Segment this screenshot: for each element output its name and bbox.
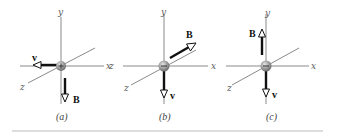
velocity-label: v: [32, 52, 37, 63]
y-axis-label: y: [160, 7, 167, 17]
z-axis-label: z: [123, 83, 129, 93]
panel-c: y x z B v (c): [226, 8, 316, 123]
magnetic-field-arrow: [259, 29, 266, 55]
caption-b: (b): [159, 111, 171, 123]
magnetic-field-arrow: [62, 78, 69, 102]
magnetic-field-label: B: [186, 29, 193, 40]
y-axis-label: y: [264, 8, 271, 18]
z-axis-label: z: [226, 83, 232, 93]
magnetic-field-arrow: [170, 43, 196, 58]
z-axis-label: z: [19, 82, 25, 92]
magnetic-field-label: B: [249, 28, 256, 39]
x-axis-label: x: [311, 61, 316, 71]
velocity-arrow: [263, 71, 270, 97]
velocity-label: v: [272, 89, 277, 100]
z-axis-label-edge: z: [108, 61, 114, 71]
velocity-label: v: [170, 90, 175, 101]
velocity-arrow: [161, 71, 168, 98]
caption-a: (a): [56, 111, 68, 123]
panel-b: y x z z B v (b): [108, 7, 216, 123]
panel-a: y x z v B (a): [19, 7, 111, 123]
magnetic-force-diagram: y x z v B (a) y x z z: [0, 0, 337, 139]
magnetic-field-label: B: [73, 94, 80, 105]
x-axis-label: x: [211, 61, 216, 71]
y-axis-label: y: [57, 7, 64, 17]
caption-c: (c): [266, 111, 278, 123]
